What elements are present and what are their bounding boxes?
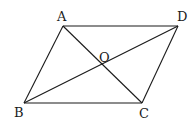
segment-ab — [24, 26, 63, 103]
segment-cd — [142, 26, 178, 103]
vertex-label-b: B — [14, 105, 24, 120]
intersection-label-o: O — [99, 50, 110, 65]
vertex-label-d: D — [177, 9, 187, 24]
parallelogram-diagram: A D B C O — [0, 0, 196, 137]
vertex-label-a: A — [56, 9, 67, 24]
vertex-label-c: C — [139, 106, 149, 121]
